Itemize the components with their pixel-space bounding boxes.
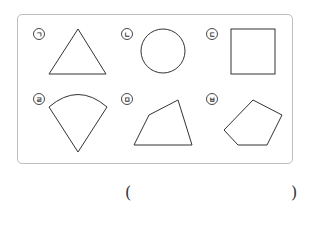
item-b: ㄴ (122, 29, 186, 74)
square-shape (231, 29, 275, 74)
item-e: ㅁ (122, 94, 193, 146)
open-paren: ( (125, 183, 131, 203)
label-d: ㄹ (36, 96, 42, 104)
label-a: ㄱ (36, 31, 42, 39)
circle-shape (141, 29, 185, 73)
pentagon-shape (224, 100, 282, 145)
triangle-shape (49, 29, 106, 74)
label-e: ㅁ (124, 96, 130, 104)
item-c: ㄷ (207, 29, 276, 75)
close-paren: ) (291, 183, 297, 203)
label-c: ㄷ (209, 31, 215, 39)
quadrilateral-shape (134, 100, 192, 145)
item-a: ㄱ (34, 29, 107, 75)
item-d: ㄹ (34, 94, 108, 153)
label-f: ㅂ (209, 96, 215, 104)
label-b: ㄴ (124, 31, 130, 39)
sector-shape (49, 95, 107, 153)
item-f: ㅂ (207, 94, 283, 146)
answer-blank[interactable] (138, 183, 290, 203)
